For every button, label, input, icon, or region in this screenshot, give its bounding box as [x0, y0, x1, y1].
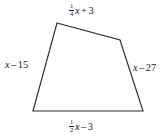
- side-label-left: x–15: [5, 60, 28, 71]
- side-label-top: 14x+3: [69, 3, 94, 18]
- operator-right: –: [138, 62, 146, 73]
- constant-left: 15: [18, 59, 29, 70]
- operator-bottom: –: [80, 121, 88, 132]
- constant-top: 3: [88, 5, 93, 16]
- fraction-one-fourth: 14: [69, 3, 74, 18]
- side-label-bottom: 12x–3: [69, 119, 93, 134]
- geometry-figure: 14x+3 x–15 x–27 12x–3: [0, 0, 167, 137]
- quadrilateral-outline: [33, 23, 143, 111]
- fraction-denominator-top: 4: [69, 10, 74, 18]
- operator-left: –: [10, 59, 18, 70]
- fraction-denominator-bottom: 2: [69, 126, 74, 134]
- constant-right: 27: [146, 62, 157, 73]
- fraction-one-half: 12: [69, 119, 74, 134]
- fraction-numerator-top: 1: [69, 3, 74, 10]
- constant-bottom: 3: [88, 121, 93, 132]
- side-label-right: x–27: [133, 63, 156, 74]
- fraction-numerator-bottom: 1: [69, 119, 74, 126]
